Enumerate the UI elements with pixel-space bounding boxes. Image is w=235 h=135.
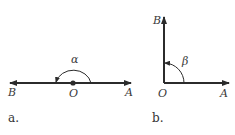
point-label-o: O [158,87,167,100]
caption-b: b. [152,111,164,125]
angle-diagrams: α B O A a. β B O A b. [0,0,235,135]
figure-b: β B O A b. [152,14,229,125]
angle-label-alpha: α [71,53,79,66]
point-label-o: O [69,87,78,100]
point-label-b: B [7,86,16,99]
point-label-b: B [152,14,161,27]
point-label-a: A [124,86,133,99]
point-o [70,80,75,85]
point-label-a: A [219,87,228,100]
caption-a: a. [8,111,19,125]
angle-label-beta: β [181,55,188,68]
figure-a: α B O A a. [7,53,133,125]
